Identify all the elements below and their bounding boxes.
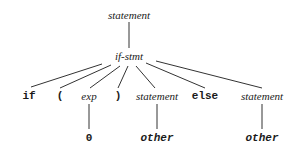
- node-statement-root: statement: [108, 10, 150, 21]
- token-other-then: other: [140, 133, 173, 144]
- node-if-stmt: if-stmt: [115, 51, 143, 62]
- parse-tree-diagram: statement if-stmt if ( exp ) statement e…: [0, 0, 300, 152]
- edge-ifstmt-stmt1: [136, 66, 155, 88]
- edge-ifstmt-if_tok: [31, 64, 102, 87]
- node-exp: exp: [81, 91, 96, 102]
- token-other-else: other: [245, 133, 278, 144]
- node-statement-else: statement: [241, 91, 283, 102]
- token-left-paren: (: [57, 91, 64, 102]
- token-zero: 0: [86, 133, 93, 144]
- edge-ifstmt-exp: [90, 66, 120, 88]
- edge-ifstmt-lparen: [60, 65, 111, 88]
- tree-edges: [0, 0, 300, 152]
- node-statement-then: statement: [136, 91, 178, 102]
- edge-ifstmt-rparen: [118, 66, 128, 88]
- edge-ifstmt-else_tok: [146, 63, 205, 88]
- token-else: else: [192, 91, 218, 102]
- token-if: if: [22, 91, 35, 102]
- token-right-paren: ): [115, 91, 122, 102]
